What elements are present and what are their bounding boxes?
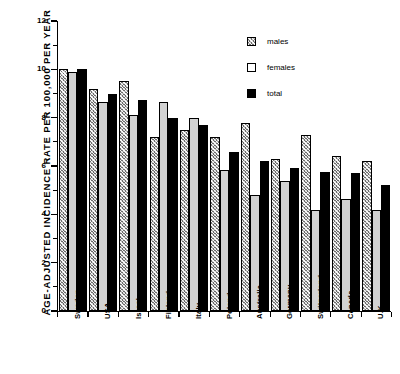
bar-canada-males <box>332 156 341 311</box>
x-axis-label-germany: Germany <box>285 285 294 319</box>
bar-poland-males <box>210 137 219 311</box>
x-axis-label-australia: Australia <box>255 285 264 319</box>
x-tick <box>239 312 240 317</box>
y-tick-label: 2 <box>20 258 46 267</box>
bar-usa-total <box>108 94 117 312</box>
y-tick-label-wrap: 8 <box>16 113 46 123</box>
x-axis-label-uk: U.K. <box>376 303 385 319</box>
y-tick-label: 12 <box>20 16 46 25</box>
legend-label-females: females <box>267 63 295 72</box>
plot-area <box>57 21 391 311</box>
x-axis-label-israel: Israel <box>134 298 143 319</box>
legend-swatch-total-icon <box>247 89 256 98</box>
y-tick-label: 4 <box>20 209 46 218</box>
x-tick <box>361 312 362 317</box>
x-tick <box>87 312 88 317</box>
bar-sweden-females <box>68 72 77 311</box>
bar-finland-males <box>150 137 159 311</box>
bar-italy-total <box>199 125 208 311</box>
bar-italy-females <box>189 118 198 311</box>
y-tick-label-wrap: 12 <box>16 16 46 26</box>
y-tick-label-wrap: 10 <box>16 64 46 74</box>
bar-sweden-males <box>59 69 68 311</box>
bar-poland-total <box>229 152 238 312</box>
x-axis-label-sweden: Sweden <box>73 289 82 319</box>
bar-usa-males <box>89 89 98 311</box>
x-tick <box>300 312 301 317</box>
y-tick-label-wrap: 2 <box>16 258 46 268</box>
x-axis-label-usa: USA <box>103 302 112 319</box>
bar-finland-females <box>159 102 168 311</box>
x-axis-label-finland: Finland <box>164 291 173 319</box>
bar-poland-females <box>220 170 229 311</box>
x-axis-label-poland: Poland <box>225 292 234 319</box>
bar-switzerland-males <box>301 135 310 311</box>
y-tick-label: 10 <box>20 64 46 73</box>
x-tick <box>209 312 210 317</box>
x-tick <box>270 312 271 317</box>
bar-israel-total <box>138 100 147 311</box>
x-axis-label-canada: Canada <box>346 290 355 319</box>
x-axis-label-switzerland: Switzerland <box>316 275 325 319</box>
x-tick <box>391 312 392 317</box>
x-tick <box>57 312 58 317</box>
x-tick <box>330 312 331 317</box>
bar-chart: AGE-ADJUSTED INCIDENCE RATE PER 100,000 … <box>0 0 400 374</box>
legend-swatch-females-icon <box>247 63 256 72</box>
bar-italy-males <box>180 130 189 311</box>
x-tick <box>178 312 179 317</box>
x-axis-label-italy: Italy <box>194 303 203 319</box>
legend-label-males: males <box>267 37 288 46</box>
bar-australia-males <box>241 123 250 312</box>
y-tick-label: 8 <box>20 113 46 122</box>
y-tick-label-wrap: 0 <box>16 306 46 316</box>
bar-uk-males <box>362 161 371 311</box>
x-tick <box>148 312 149 317</box>
bar-israel-males <box>119 81 128 311</box>
bar-uk-total <box>381 185 390 311</box>
y-tick-label-wrap: 4 <box>16 209 46 219</box>
bar-usa-females <box>98 102 107 311</box>
legend-swatch-males-icon <box>247 37 256 46</box>
legend-label-total: total <box>267 89 282 98</box>
bar-israel-females <box>129 115 138 311</box>
x-tick <box>118 312 119 317</box>
bar-germany-males <box>271 159 280 311</box>
bar-finland-total <box>168 118 177 311</box>
y-tick-label: 0 <box>20 306 46 315</box>
y-tick-label: 6 <box>20 161 46 170</box>
y-tick-label-wrap: 6 <box>16 161 46 171</box>
bar-sweden-total <box>77 69 86 311</box>
bar-uk-females <box>372 210 381 312</box>
